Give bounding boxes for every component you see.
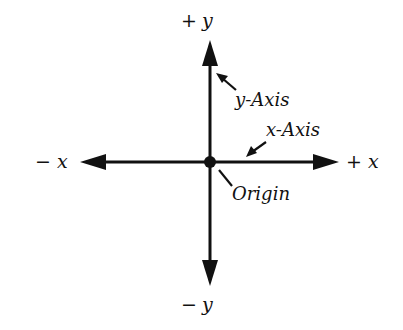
label-x-axis: x-Axis — [266, 119, 320, 140]
label-pos-x: +x — [346, 150, 379, 172]
origin-dot — [204, 156, 216, 168]
label-y-axis: y-Axis — [234, 89, 289, 110]
origin-pointer — [219, 170, 232, 186]
label-neg-y: −y — [181, 293, 213, 315]
coordinate-axes-diagram: +y −y +x −x y-Axis x-Axis Origin — [0, 0, 403, 330]
arrow-up-icon — [202, 40, 218, 66]
y-axis-pointer — [216, 73, 236, 90]
x-axis-pointer — [246, 142, 266, 157]
arrow-left-icon — [80, 154, 106, 170]
arrow-right-icon — [313, 154, 339, 170]
label-pos-y: +y — [181, 9, 213, 31]
label-neg-x: −x — [35, 150, 68, 172]
label-origin: Origin — [232, 183, 290, 204]
arrow-down-icon — [202, 260, 218, 286]
